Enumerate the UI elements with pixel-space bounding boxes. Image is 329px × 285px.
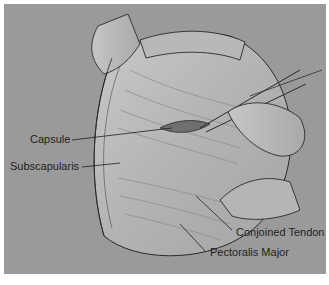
label-subscapularis: Subscapularis — [10, 161, 79, 172]
label-capsule: Capsule — [30, 134, 70, 145]
label-conjoined-tendon: Conjoined Tendon — [236, 227, 324, 238]
illustration-frame: Capsule Subscapularis Conjoined Tendon P… — [0, 0, 329, 285]
label-pectoralis-major: Pectoralis Major — [210, 247, 289, 258]
